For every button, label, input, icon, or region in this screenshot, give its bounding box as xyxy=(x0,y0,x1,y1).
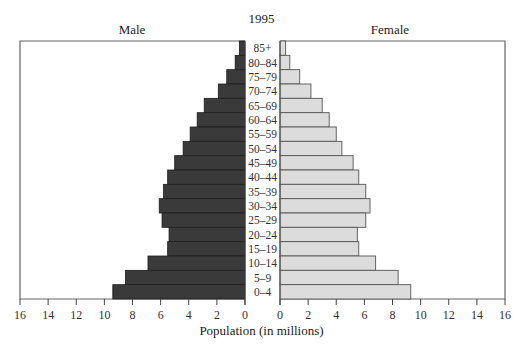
male-bar xyxy=(183,141,245,155)
male-bar xyxy=(175,156,245,170)
x-tick-label: 12 xyxy=(70,308,82,322)
age-group-label: 10–14 xyxy=(248,257,277,269)
age-group-label: 20–24 xyxy=(248,229,277,241)
male-bar xyxy=(113,285,245,299)
female-bar xyxy=(280,242,359,256)
x-tick-label: 6 xyxy=(361,308,367,322)
female-bar xyxy=(280,70,300,84)
age-group-label: 50–54 xyxy=(248,143,277,155)
x-tick-label: 14 xyxy=(471,308,483,322)
male-bar xyxy=(159,199,245,213)
population-pyramid-chart: 85+80–8475–7970–7465–6960–6455–5950–5445… xyxy=(0,0,523,352)
age-group-label: 0–4 xyxy=(254,286,272,298)
x-tick-label: 2 xyxy=(305,308,311,322)
male-bar xyxy=(197,113,245,127)
female-bar xyxy=(280,184,366,198)
age-group-label: 35–39 xyxy=(248,186,277,198)
x-tick-label: 16 xyxy=(499,308,511,322)
x-tick-label: 10 xyxy=(415,308,427,322)
female-bar xyxy=(280,227,357,241)
male-bar xyxy=(239,41,245,55)
x-tick-label: 0 xyxy=(242,308,248,322)
male-panel xyxy=(20,41,245,299)
x-tick-label: 6 xyxy=(158,308,164,322)
age-group-label: 70–74 xyxy=(248,85,277,97)
male-bar xyxy=(218,84,245,98)
age-group-label: 30–34 xyxy=(248,200,277,212)
female-bar xyxy=(280,156,353,170)
female-bar xyxy=(280,141,342,155)
male-bar xyxy=(168,170,245,184)
female-bar xyxy=(280,199,370,213)
x-tick-label: 2 xyxy=(214,308,220,322)
age-group-label: 25–29 xyxy=(248,214,277,226)
female-bar xyxy=(280,213,366,227)
female-bar xyxy=(280,256,376,270)
male-bar xyxy=(227,70,245,84)
x-tick-label: 10 xyxy=(98,308,110,322)
female-bar xyxy=(280,127,336,141)
age-group-label: 85+ xyxy=(254,42,272,54)
female-panel xyxy=(280,41,505,299)
male-bar xyxy=(163,184,245,198)
x-tick-label: 12 xyxy=(443,308,455,322)
male-bar xyxy=(235,55,245,69)
x-tick-label: 4 xyxy=(186,308,192,322)
male-bar xyxy=(168,242,245,256)
female-bar xyxy=(280,84,311,98)
female-bar xyxy=(280,113,329,127)
age-group-label: 40–44 xyxy=(248,171,277,183)
female-bar xyxy=(280,98,322,112)
x-tick-label: 16 xyxy=(14,308,26,322)
age-group-label: 45–49 xyxy=(248,157,277,169)
x-tick-label: 0 xyxy=(277,308,283,322)
age-group-label: 15–19 xyxy=(248,243,277,255)
age-group-label: 65–69 xyxy=(248,100,277,112)
male-bar xyxy=(190,127,245,141)
x-tick-label: 4 xyxy=(333,308,339,322)
male-bar xyxy=(125,270,245,284)
male-bar xyxy=(169,227,245,241)
male-bar xyxy=(148,256,245,270)
female-bar xyxy=(280,285,411,299)
x-tick-label: 8 xyxy=(390,308,396,322)
female-bar xyxy=(280,41,286,55)
x-axis-label: Population (in millions) xyxy=(0,323,523,339)
age-group-label: 75–79 xyxy=(248,71,277,83)
female-bar xyxy=(280,270,398,284)
age-group-label: 55–59 xyxy=(248,128,277,140)
x-tick-label: 8 xyxy=(130,308,136,322)
male-bar xyxy=(204,98,245,112)
age-group-labels: 85+80–8475–7970–7465–6960–6455–5950–5445… xyxy=(248,42,277,298)
x-tick-label: 14 xyxy=(42,308,54,322)
male-bar xyxy=(162,213,245,227)
age-group-label: 60–64 xyxy=(248,114,277,126)
female-bar xyxy=(280,55,290,69)
age-group-label: 5–9 xyxy=(254,272,272,284)
age-group-label: 80–84 xyxy=(248,57,277,69)
female-bar xyxy=(280,170,359,184)
